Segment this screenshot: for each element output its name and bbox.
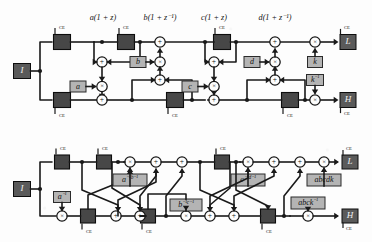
top-adder-l1-glyph: + xyxy=(100,95,104,104)
top-adder-d-glyph: + xyxy=(273,37,277,46)
top-u-arrow-L xyxy=(334,39,339,45)
bot-mul-bc-glyph: × xyxy=(184,212,188,219)
top-reg-u3-ce-label: CE xyxy=(219,25,225,30)
top-reg-l1-ce-label: CE xyxy=(59,113,65,118)
bot-reg-l3-ce-label: CE xyxy=(266,229,272,234)
bot-adder-l4-glyph: + xyxy=(232,211,236,220)
top-coef-a-label: a xyxy=(76,82,80,91)
top-mul-kinv-glyph: × xyxy=(313,96,317,103)
stage-label-stage-a: a(1 + z) xyxy=(90,13,117,22)
bot-reg-u1-ce-label: CE xyxy=(60,146,66,151)
top-reg-l3[interactable] xyxy=(282,93,299,108)
bot-coef-abcdk-arrow xyxy=(321,167,327,172)
top-mul-k-glyph: × xyxy=(313,38,317,45)
top-reg-u2[interactable] xyxy=(118,35,135,50)
top-coef-c-label: c xyxy=(188,82,192,91)
bot-adder-u4-glyph: + xyxy=(298,157,302,166)
top-mul-d-up-arrow xyxy=(272,48,278,53)
top-a-left-branch xyxy=(94,42,97,62)
top-output-L-ce-label: CE xyxy=(344,25,350,30)
top-adder-d2-glyph: + xyxy=(273,75,277,84)
bot-mul-ainv-glyph: × xyxy=(60,212,64,219)
top-coef-c-arrow xyxy=(204,83,209,89)
bot-u-arrow-L xyxy=(334,159,339,165)
bot-u-tap-2 xyxy=(116,160,120,164)
bot-feed-u2-arrow xyxy=(179,168,185,173)
bot-output-H-ce-label: CE xyxy=(346,226,352,231)
bot-reg-l3[interactable] xyxy=(261,209,276,223)
bot-reg-u2[interactable] xyxy=(97,155,112,169)
top-input-to-upper xyxy=(40,42,52,71)
top-d-in-left xyxy=(247,80,270,100)
top-reg-l2-ce-label: CE xyxy=(172,113,178,118)
bot-feed-u3-arrow xyxy=(271,168,277,173)
bot-adder-l3-glyph: + xyxy=(208,211,212,220)
stage-label-stage-d: d(1 + z⁻¹) xyxy=(259,13,292,22)
top-l-tap-4 xyxy=(303,98,307,102)
top-mul-d-glyph: × xyxy=(273,58,277,65)
bot-reg-l2-ce-label: CE xyxy=(146,229,152,234)
stage-label-stage-c: c(1 + z) xyxy=(201,13,227,22)
bot-output-L-ce-label: CE xyxy=(346,146,352,151)
bot-mul-cd-glyph: × xyxy=(246,158,250,165)
top-adder-c-glyph: + xyxy=(212,57,216,66)
figure-canvas: a(1 + z)b(1 + z⁻¹)c(1 + z)d(1 + z⁻¹)ICEC… xyxy=(0,0,372,242)
bot-mul-ab-glyph: × xyxy=(128,158,132,165)
top-reg-u1[interactable] xyxy=(54,35,71,50)
top-coef-k-arrow xyxy=(312,48,318,53)
top-output-L-label: L xyxy=(344,36,350,46)
top-reg-l1[interactable] xyxy=(54,93,71,108)
bot-output-L-label: L xyxy=(346,156,352,166)
top-c-left-branch xyxy=(205,42,209,62)
bot-reg-u1[interactable] xyxy=(55,155,70,169)
bot-reg-l1[interactable] xyxy=(81,209,96,223)
bot-adder-u1-glyph: + xyxy=(154,157,158,166)
bot-reg-u2-ce-label: CE xyxy=(102,146,108,151)
bot-l-arrow-H xyxy=(334,213,339,219)
bot-feed-u4-arrow xyxy=(297,168,303,173)
top-reg-l2[interactable] xyxy=(167,93,184,108)
bot-output-H-label: H xyxy=(346,210,354,220)
top-adder-a-glyph: + xyxy=(100,57,104,66)
top-output-H-ce-label: CE xyxy=(344,111,350,116)
top-adder-b2-glyph: + xyxy=(158,75,162,84)
bot-adder-u3-glyph: + xyxy=(272,157,276,166)
top-coef-a-arrow xyxy=(92,83,97,89)
top-b-in-left xyxy=(132,80,155,100)
top-l-arrow-H xyxy=(334,97,339,103)
bot-reg-u3[interactable] xyxy=(215,155,230,169)
top-coef-d-arrow xyxy=(265,59,270,65)
filter-bank-diagram: a(1 + z)b(1 + z⁻¹)c(1 + z)d(1 + z⁻¹)ICEC… xyxy=(0,0,372,242)
top-coef-k-label: k xyxy=(313,57,317,66)
top-reg-u1-ce-label: CE xyxy=(59,25,65,30)
stage-label-stage-b: b(1 + z⁻¹) xyxy=(144,13,177,22)
top-coef-kinv-arrow xyxy=(312,90,318,95)
top-mul-b-glyph: × xyxy=(158,58,162,65)
top-coef-b-arrow xyxy=(150,59,155,65)
top-adder-l2-glyph: + xyxy=(212,95,216,104)
top-reg-u2-ce-label: CE xyxy=(123,25,129,30)
bot-coef-ab-arrow xyxy=(127,167,133,172)
bot-input-to-upper xyxy=(40,162,52,189)
bot-mul-abckinv-glyph: × xyxy=(306,212,310,219)
top-mul-b-up-arrow xyxy=(157,48,163,53)
top-adder-b-glyph: + xyxy=(158,37,162,46)
bot-mul-abcdk-glyph: × xyxy=(322,158,326,165)
top-input-to-lower xyxy=(40,71,52,100)
top-reg-l3-ce-label: CE xyxy=(287,113,293,118)
top-mul-c-glyph: × xyxy=(212,82,216,89)
bot-reg-u3-ce-label: CE xyxy=(220,146,226,151)
top-mul-a-glyph: × xyxy=(100,82,104,89)
top-output-H-label: H xyxy=(344,94,352,104)
top-reg-u3[interactable] xyxy=(214,35,231,50)
bot-reg-l1-ce-label: CE xyxy=(86,229,92,234)
top-coef-b-label: b xyxy=(136,57,140,66)
bot-adder-u2-glyph: + xyxy=(180,157,184,166)
